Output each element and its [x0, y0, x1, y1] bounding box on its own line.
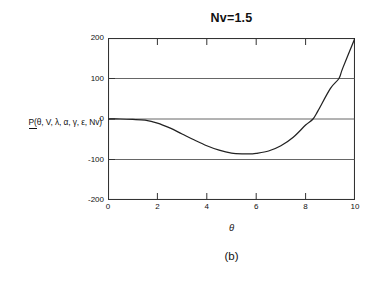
plot-area [108, 38, 355, 200]
x-axis-tick-labels: 0 2 4 6 8 10 [108, 203, 355, 217]
x-tick-label: 6 [244, 203, 268, 211]
plot-svg [108, 38, 355, 200]
y-axis-tick-labels: 200 100 0 -100 -200 [72, 38, 104, 200]
y-tick-label: 200 [74, 34, 104, 42]
chart-title: Nv=1.5 [108, 11, 355, 25]
figure-container: Nv=1.5 P(θ, V, λ, α, γ, ε, Nv) 200 100 0… [0, 0, 385, 285]
x-axis-label: θ [108, 222, 355, 233]
x-tick-label: 4 [195, 203, 219, 211]
y-tick-label: 100 [74, 75, 104, 83]
data-series-line [108, 38, 355, 154]
x-tick-label: 8 [294, 203, 318, 211]
x-tick-label: 2 [145, 203, 169, 211]
figure-caption: (b) [108, 250, 355, 262]
y-tick-label: -100 [74, 156, 104, 164]
y-tick-label: 0 [74, 115, 104, 123]
y-axis-label-prefix: P( [29, 117, 37, 129]
x-tick-label: 0 [96, 203, 120, 211]
x-tick-label: 10 [343, 203, 367, 211]
